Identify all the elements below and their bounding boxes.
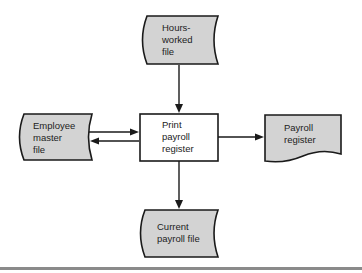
node-hours-worked-file[interactable]: Hours- worked file — [143, 16, 219, 64]
node-label-line: register — [162, 143, 194, 154]
flowchart-canvas: Hours- worked file Employee master file … — [0, 0, 362, 273]
edge-process-to-payroll-register — [218, 134, 264, 141]
bottom-divider — [0, 267, 362, 270]
node-label-line: register — [284, 134, 316, 145]
node-label-line: Current — [157, 221, 189, 232]
node-label-line: Payroll — [284, 122, 313, 133]
arrow-right-icon — [130, 129, 139, 136]
edge-hours-to-process — [175, 65, 183, 113]
node-payroll-register[interactable]: Payroll register — [265, 115, 341, 162]
edge-process-to-employee — [90, 138, 139, 145]
node-employee-master-file[interactable]: Employee master file — [20, 114, 93, 160]
node-print-payroll-register[interactable]: Print payroll register — [140, 114, 218, 161]
node-label-line: Print — [162, 119, 182, 130]
node-current-payroll-file[interactable]: Current payroll file — [141, 210, 219, 257]
arrow-right-icon — [255, 134, 264, 141]
node-label-line: worked — [161, 34, 193, 45]
arrow-left-icon — [90, 138, 99, 145]
edge-process-to-current-file — [175, 161, 183, 209]
arrow-down-icon — [175, 200, 183, 209]
node-label-line: file — [162, 46, 174, 57]
node-label-line: master — [33, 132, 62, 143]
arrow-down-icon — [175, 104, 183, 113]
edge-employee-to-process — [89, 129, 139, 136]
node-label-line: Employee — [33, 120, 75, 131]
node-label-line: Hours- — [162, 22, 191, 33]
node-label-line: file — [33, 144, 45, 155]
node-label-line: payroll file — [157, 233, 200, 244]
node-label-line: payroll — [162, 131, 190, 142]
